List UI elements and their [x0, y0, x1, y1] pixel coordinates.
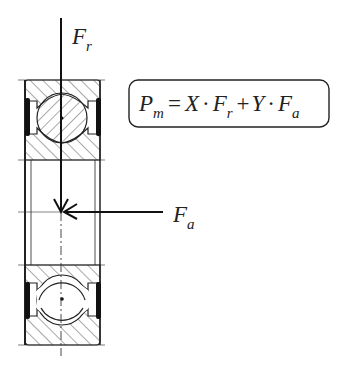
radial-force-label: Fr	[71, 24, 92, 54]
seal-left-bottom	[25, 282, 30, 319]
seal-right-bottom	[96, 282, 101, 319]
seal-left-top	[25, 98, 30, 136]
axial-force-arrow	[64, 204, 163, 219]
bearing-diagram: Fr Fa Pm=X·Fr+Y·Fa	[0, 0, 347, 369]
formula-box: Pm=X·Fr+Y·Fa	[129, 80, 329, 127]
seal-right-top	[96, 98, 101, 136]
axial-force-label: Fa	[172, 202, 195, 232]
bottom-bearing-section	[18, 265, 105, 345]
